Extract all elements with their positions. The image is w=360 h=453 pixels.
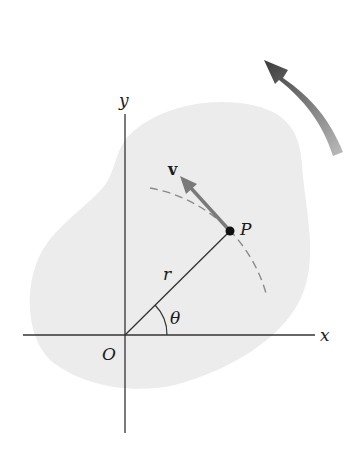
point-p-dot [226,227,235,236]
radius-label: r [163,264,172,284]
rigid-body-shape [30,102,310,389]
y-axis-label: y [118,90,129,110]
point-p-label: P [239,219,252,239]
x-axis-label: x [320,325,330,345]
origin-label: O [102,344,116,364]
velocity-label: v [167,160,178,179]
rotating-body-diagram: y x O P r θ v [0,0,360,453]
theta-label: θ [170,308,180,328]
